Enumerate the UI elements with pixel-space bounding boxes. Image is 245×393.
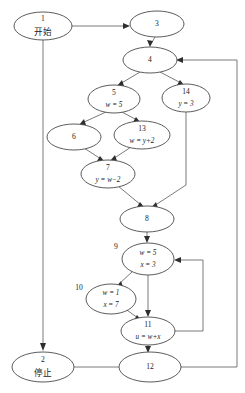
edge-layer bbox=[40, 23, 237, 367]
node-1-label: 开始 bbox=[34, 26, 52, 37]
node-13-expression: w = y+2 bbox=[130, 137, 155, 145]
node-12-number: 12 bbox=[146, 362, 154, 371]
node-10-number: 10 bbox=[75, 283, 83, 292]
node-3[interactable]: 3 bbox=[130, 11, 184, 37]
edge-1-to-3 bbox=[72, 23, 130, 29]
node-1-start[interactable]: 1 开始 bbox=[14, 12, 72, 40]
node-1-number: 1 bbox=[41, 14, 45, 23]
node-2-label: 停止 bbox=[34, 367, 52, 378]
node-5[interactable]: 5 w = 5 bbox=[88, 85, 140, 113]
node-11-number: 11 bbox=[144, 320, 152, 329]
node-6-number: 6 bbox=[72, 132, 76, 141]
node-3-number: 3 bbox=[155, 19, 159, 28]
edge-9-to-11 bbox=[145, 275, 151, 317]
node-10[interactable]: w = 1 x = 7 bbox=[86, 284, 136, 314]
node-12[interactable]: 12 bbox=[119, 352, 181, 382]
node-14-number: 14 bbox=[182, 87, 190, 96]
node-9-number: 9 bbox=[114, 242, 118, 251]
edge-3-to-4 bbox=[147, 37, 155, 47]
edge-5-to-13 bbox=[122, 112, 140, 122]
node-10-expression-1: w = 1 bbox=[103, 289, 120, 297]
edge-6-to-7 bbox=[84, 148, 104, 161]
node-9-expression-2: x = 3 bbox=[139, 261, 156, 269]
node-11-expression: u = w+x bbox=[136, 333, 162, 341]
node-9-expression-1: w = 5 bbox=[140, 249, 157, 257]
node-10-expression-2: x = 7 bbox=[102, 301, 119, 309]
edge-4-to-5 bbox=[117, 72, 140, 86]
edge-8-to-9 bbox=[144, 232, 150, 243]
node-13-number: 13 bbox=[138, 124, 146, 133]
edge-4-to-14 bbox=[160, 72, 184, 85]
node-11[interactable]: 11 u = w+x bbox=[121, 317, 175, 345]
node-2-stop[interactable]: 2 停止 bbox=[12, 352, 74, 382]
node-7-number: 7 bbox=[106, 163, 110, 172]
node-7-expression: y = w−2 bbox=[95, 176, 121, 184]
node-4[interactable]: 4 bbox=[123, 47, 177, 73]
edge-7-to-8 bbox=[118, 186, 144, 207]
node-2-number: 2 bbox=[41, 355, 45, 364]
edge-1-to-2-bypass bbox=[40, 40, 46, 351]
node-5-expression: w = 5 bbox=[106, 101, 123, 109]
node-layer: 1 开始 3 4 5 w = 5 14 bbox=[12, 11, 210, 382]
node-7[interactable]: 7 y = w−2 bbox=[81, 160, 135, 188]
edge-13-to-7 bbox=[110, 147, 131, 161]
edge-5-to-6 bbox=[79, 112, 106, 125]
node-4-number: 4 bbox=[148, 55, 152, 64]
node-8[interactable]: 8 bbox=[120, 206, 174, 232]
flowchart-svg: 1 开始 3 4 5 w = 5 14 bbox=[0, 0, 245, 393]
node-13[interactable]: 13 w = y+2 bbox=[114, 121, 170, 149]
node-14-expression: y = 3 bbox=[177, 100, 194, 108]
flowchart-canvas: 1 开始 3 4 5 w = 5 14 bbox=[0, 0, 245, 393]
node-9[interactable]: w = 5 x = 3 bbox=[122, 243, 174, 275]
edge-11-to-9-feedback bbox=[174, 257, 203, 331]
node-6[interactable]: 6 bbox=[47, 124, 101, 150]
node-14[interactable]: 14 y = 3 bbox=[162, 84, 210, 112]
node-5-number: 5 bbox=[112, 88, 116, 97]
node-8-number: 8 bbox=[145, 214, 149, 223]
